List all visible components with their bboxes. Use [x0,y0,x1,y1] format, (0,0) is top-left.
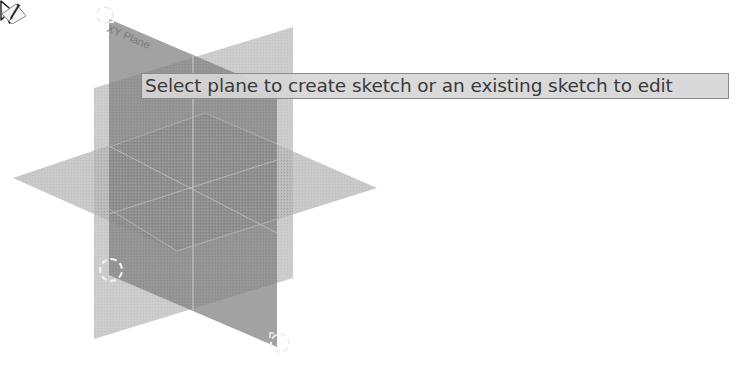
plane-resize-handle-bottom-right[interactable] [270,333,290,353]
tooltip: Select plane to create sketch or an exis… [141,73,729,99]
plane-resize-handle-top-left[interactable] [96,6,114,24]
sketch-pencil-icon [0,0,28,24]
origin-planes [0,0,746,369]
3d-viewport[interactable]: XY Plane Select plane to create sketch o… [0,0,746,369]
plane-resize-handle-bottom-left[interactable] [99,258,123,282]
